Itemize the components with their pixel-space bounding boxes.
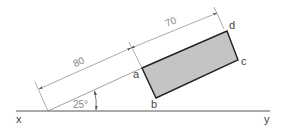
dimension-80-label: 80 — [71, 54, 86, 69]
rectangle-abcd — [142, 31, 238, 98]
corner-label-b: b — [151, 98, 157, 110]
corner-label-a: a — [133, 68, 140, 80]
angle-arc — [95, 91, 97, 110]
y-label: y — [264, 113, 270, 125]
x-label: x — [16, 113, 22, 125]
angle-label: 25° — [73, 99, 88, 110]
inclined-line — [48, 68, 142, 111]
corner-label-c: c — [241, 55, 247, 67]
dimension-line-80 — [39, 48, 131, 89]
corner-label-d: d — [229, 19, 235, 31]
dimension-70-label: 70 — [163, 14, 178, 29]
extension-line-d — [214, 7, 224, 29]
projection-diagram: 80 70 25° a b c d x y — [0, 0, 284, 130]
extension-line-origin — [35, 82, 48, 111]
